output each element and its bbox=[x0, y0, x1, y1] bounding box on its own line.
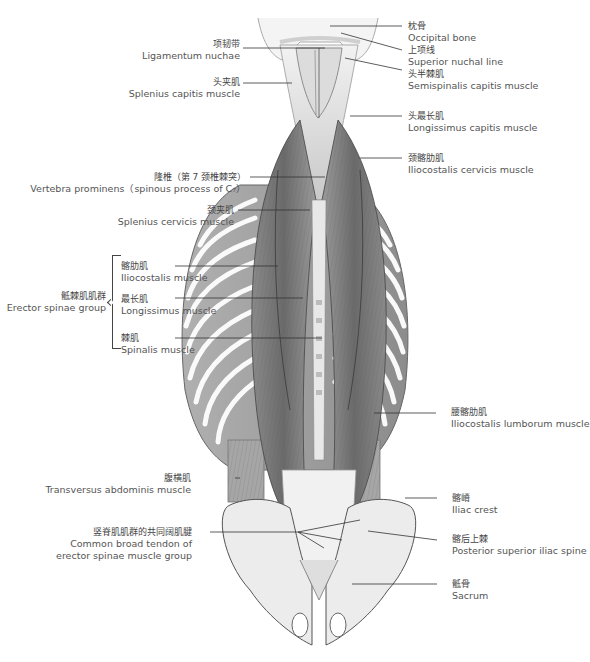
label-zh: 髂嵴 bbox=[452, 492, 498, 504]
label-longissimus: 最长肌 Longissimus muscle bbox=[121, 293, 216, 317]
label-zh: 腹横肌 bbox=[45, 472, 191, 484]
label-zh: 最长肌 bbox=[121, 293, 216, 305]
label-splenius-cervicis: 颈夹肌 Splenius cervicis muscle bbox=[118, 204, 234, 228]
label-iliocostalis-cervicis: 颈髂肋肌 Iliocostalis cervicis muscle bbox=[408, 152, 534, 176]
label-zh: 项韧带 bbox=[142, 38, 240, 50]
label-en: Vertebra prominens（spinous process of C₇… bbox=[30, 183, 246, 195]
label-en-line2: erector spinae muscle group bbox=[56, 550, 192, 562]
label-iliocostalis: 髂肋肌 Iliocostalis muscle bbox=[121, 260, 208, 284]
label-zh: 上项线 bbox=[408, 44, 503, 56]
label-iliocostalis-lumborum: 腰髂肋肌 Iliocostalis lumborum muscle bbox=[451, 406, 590, 430]
label-zh: 隆椎（第 7 颈椎棘突） bbox=[30, 171, 246, 183]
label-posterior-superior-iliac-spine: 髂后上棘 Posterior superior iliac spine bbox=[452, 533, 587, 557]
label-en: Superior nuchal line bbox=[408, 56, 503, 68]
label-zh: 头夹肌 bbox=[129, 76, 240, 88]
label-zh: 头最长肌 bbox=[408, 110, 537, 122]
label-en: Iliocostalis cervicis muscle bbox=[408, 164, 534, 176]
label-en: Splenius cervicis muscle bbox=[118, 216, 234, 228]
label-en: Splenius capitis muscle bbox=[129, 88, 240, 100]
label-zh: 腰髂肋肌 bbox=[451, 406, 590, 418]
label-zh: 颈髂肋肌 bbox=[408, 152, 534, 164]
label-common-broad-tendon: 竖脊肌肌群的共同阔肌腱 Common broad tendon of erect… bbox=[56, 526, 192, 562]
label-zh: 棘肌 bbox=[121, 332, 195, 344]
label-en: Posterior superior iliac spine bbox=[452, 545, 587, 557]
label-vertebra-prominens: 隆椎（第 7 颈椎棘突） Vertebra prominens（spinous … bbox=[30, 171, 246, 195]
label-zh: 骶棘肌肌群 bbox=[7, 290, 106, 302]
label-splenius-capitis: 头夹肌 Splenius capitis muscle bbox=[129, 76, 240, 100]
label-superior-nuchal-line: 上项线 Superior nuchal line bbox=[408, 44, 503, 68]
label-en: Spinalis muscle bbox=[121, 344, 195, 356]
label-spinalis: 棘肌 Spinalis muscle bbox=[121, 332, 195, 356]
label-en: Iliocostalis muscle bbox=[121, 272, 208, 284]
label-zh: 髂后上棘 bbox=[452, 533, 587, 545]
label-ligamentum-nuchae: 项韧带 Ligamentum nuchae bbox=[142, 38, 240, 62]
label-zh: 头半棘肌 bbox=[408, 68, 538, 80]
label-en: Sacrum bbox=[452, 590, 488, 602]
label-transversus-abdominis: 腹横肌 Transversus abdominis muscle bbox=[45, 472, 191, 496]
label-en: Longissimus capitis muscle bbox=[408, 122, 537, 134]
label-en: Common broad tendon of bbox=[56, 538, 192, 550]
label-occipital-bone: 枕骨 Occipital bone bbox=[408, 20, 476, 44]
label-zh: 竖脊肌肌群的共同阔肌腱 bbox=[56, 526, 192, 538]
label-en: Occipital bone bbox=[408, 32, 476, 44]
label-en: Iliocostalis lumborum muscle bbox=[451, 418, 590, 430]
group-brace bbox=[112, 255, 121, 349]
label-en: Ligamentum nuchae bbox=[142, 50, 240, 62]
label-en: Iliac crest bbox=[452, 504, 498, 516]
label-zh: 枕骨 bbox=[408, 20, 476, 32]
label-zh: 颈夹肌 bbox=[118, 204, 234, 216]
label-en: Transversus abdominis muscle bbox=[45, 484, 191, 496]
label-semispinalis-capitis: 头半棘肌 Semispinalis capitis muscle bbox=[408, 68, 538, 92]
label-zh: 髂肋肌 bbox=[121, 260, 208, 272]
label-en: Semispinalis capitis muscle bbox=[408, 80, 538, 92]
label-longissimus-capitis: 头最长肌 Longissimus capitis muscle bbox=[408, 110, 537, 134]
label-en: Erector spinae group bbox=[7, 302, 106, 314]
label-iliac-crest: 髂嵴 Iliac crest bbox=[452, 492, 498, 516]
label-sacrum: 骶骨 Sacrum bbox=[452, 578, 488, 602]
label-zh: 骶骨 bbox=[452, 578, 488, 590]
label-en: Longissimus muscle bbox=[121, 305, 216, 317]
label-erector-spinae-group: 骶棘肌肌群 Erector spinae group bbox=[7, 290, 106, 314]
